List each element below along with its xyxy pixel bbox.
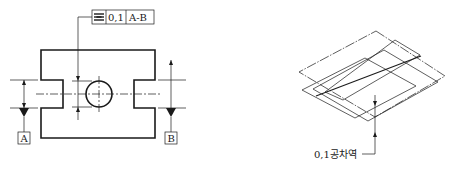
datum-label-b: B [168, 133, 175, 144]
drawing-canvas: 0,1 A-B A B 0,1공차역 [0, 0, 453, 174]
reference-plane [299, 31, 445, 117]
tolerance-value: 0,1 [108, 12, 124, 23]
feature-control-frame: 0,1 A-B [92, 10, 154, 24]
right-figure: 0,1공차역 [299, 31, 445, 160]
tolerance-zone-label: 0,1공차역 [314, 149, 357, 160]
tolerance-plane-middle [313, 50, 438, 121]
leader-line [78, 17, 92, 120]
median-plane-edge [316, 56, 421, 96]
datum-a: A [18, 108, 30, 144]
datum-reference: A-B [128, 12, 147, 23]
left-figure: 0,1 A-B A B [10, 10, 186, 144]
datum-triangle-icon [166, 108, 176, 117]
datum-b: B [165, 108, 177, 144]
symmetry-icon [94, 14, 104, 20]
annotation-leader [362, 95, 375, 154]
datum-label-a: A [20, 133, 29, 144]
datum-triangle-icon [19, 108, 29, 117]
